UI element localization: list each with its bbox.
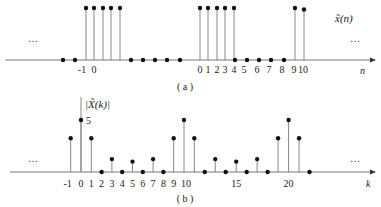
stem-dot [293, 6, 297, 10]
stem-dot [130, 159, 134, 163]
caption-a: ( a ) [177, 81, 193, 93]
caption-b: ( b ) [177, 193, 194, 205]
ellipsis-right: … [350, 153, 360, 164]
zero-dot [178, 58, 182, 62]
tick-label: -1 [78, 64, 86, 75]
tick-label: 20 [284, 178, 294, 189]
zero-dot [265, 170, 269, 174]
stem-dot [215, 6, 219, 10]
stem-dot [234, 159, 238, 163]
stem-dot [101, 6, 105, 10]
tick-label: 7 [267, 64, 272, 75]
ellipsis-right: … [350, 33, 360, 44]
zero-dot [129, 58, 133, 62]
zero-dot [224, 170, 228, 174]
zero-dot [61, 58, 65, 62]
tick-label: 9 [292, 64, 297, 75]
series-label-b: |X̃(k)| [85, 98, 110, 111]
stem-dot [182, 118, 186, 122]
peak-value-label: 5 [86, 115, 91, 126]
tick-label: 2 [215, 64, 220, 75]
stem-dot [223, 6, 227, 10]
tick-label: 3 [109, 178, 114, 189]
zero-dot [161, 170, 165, 174]
stem-dot [151, 157, 155, 161]
stem-dot [297, 136, 301, 140]
stem-dot [79, 118, 83, 122]
ellipsis-left: … [28, 153, 38, 164]
tick-label: 3 [223, 64, 228, 75]
zero-dot [203, 170, 207, 174]
stem-dot [286, 118, 290, 122]
ellipsis-left: … [28, 33, 38, 44]
tick-label: 0 [92, 64, 97, 75]
figure-canvas: -10012345678910……x̃(n)n( a )-10123456789… [0, 0, 381, 207]
tick-label: 4 [232, 64, 237, 75]
stem-dot [192, 136, 196, 140]
zero-dot [73, 58, 77, 62]
zero-dot [165, 58, 169, 62]
stem-dot [255, 157, 259, 161]
tick-label: 5 [130, 178, 135, 189]
zero-dot [282, 58, 286, 62]
series-label-a: x̃(n) [334, 12, 353, 25]
dft-magnitude-figure: -10012345678910……x̃(n)n( a )-10123456789… [0, 0, 381, 207]
stem-dot [84, 6, 88, 10]
zero-dot [141, 58, 145, 62]
tick-label: 10 [181, 178, 191, 189]
zero-dot [244, 170, 248, 174]
stem-dot [109, 6, 113, 10]
zero-dot [257, 58, 261, 62]
stem-dot [110, 157, 114, 161]
tick-label: 5 [242, 64, 247, 75]
tick-label: 8 [161, 178, 166, 189]
tick-label: 7 [151, 178, 156, 189]
stem-dot [206, 6, 210, 10]
zero-dot [120, 170, 124, 174]
tick-label: 1 [89, 178, 94, 189]
stem-dot [198, 6, 202, 10]
stem-dot [276, 136, 280, 140]
tick-label: 15 [231, 178, 241, 189]
stem-dot [172, 136, 176, 140]
zero-dot [245, 58, 249, 62]
zero-dot [269, 58, 273, 62]
tick-label: 0 [79, 178, 84, 189]
tick-label: 6 [140, 178, 145, 189]
stem-dot [302, 7, 306, 11]
tick-label: 6 [255, 64, 260, 75]
stem-dot [213, 157, 217, 161]
stem-dot [92, 6, 96, 10]
k-axis-arrow-icon [370, 170, 376, 175]
zero-dot [233, 58, 237, 62]
tick-label: -1 [64, 178, 72, 189]
stem-dot [69, 136, 73, 140]
zero-dot [141, 170, 145, 174]
tick-label: 9 [171, 178, 176, 189]
tick-label: 1 [206, 64, 211, 75]
axis-label-k: k [366, 178, 371, 189]
zero-dot [99, 170, 103, 174]
stem-dot [118, 6, 122, 10]
n-axis-arrow-icon [370, 58, 376, 63]
axis-label-n: n [360, 65, 365, 76]
zero-dot [153, 58, 157, 62]
stem-dot [232, 6, 236, 10]
tick-label: 2 [99, 178, 104, 189]
tick-label: 8 [280, 64, 285, 75]
zero-dot [307, 170, 311, 174]
stem-dot [89, 136, 93, 140]
tick-label: 10 [298, 64, 308, 75]
tick-label: 0 [198, 64, 203, 75]
tick-label: 4 [120, 178, 125, 189]
